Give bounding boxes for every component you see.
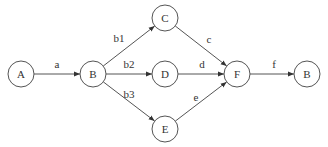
edge-label: a xyxy=(55,58,60,70)
diagram-canvas: ab1b2b3cdef ABCDEFB xyxy=(0,0,328,147)
edge-label: e xyxy=(194,91,199,103)
edge-label: b1 xyxy=(114,32,125,44)
edge-label: c xyxy=(207,33,212,45)
node-label: B xyxy=(89,68,96,80)
node-f: F xyxy=(224,61,250,87)
node-b2: B xyxy=(294,61,320,87)
edge-label: b2 xyxy=(124,58,135,70)
node-label: B xyxy=(303,68,310,80)
node-a: A xyxy=(8,61,34,87)
edge-label: d xyxy=(199,58,205,70)
node-label: F xyxy=(234,68,240,80)
node-d: D xyxy=(152,61,178,87)
node-label: D xyxy=(161,68,169,80)
node-e: E xyxy=(152,116,178,142)
node-c: C xyxy=(152,5,178,31)
node-label: C xyxy=(161,12,168,24)
node-label: E xyxy=(162,123,169,135)
node-b1: B xyxy=(80,61,106,87)
node-label: A xyxy=(17,68,25,80)
graph-svg: ab1b2b3cdef ABCDEFB xyxy=(0,0,328,147)
edge-e-f xyxy=(175,82,226,121)
edge-label: f xyxy=(272,58,276,70)
edge-label: b3 xyxy=(124,88,136,100)
